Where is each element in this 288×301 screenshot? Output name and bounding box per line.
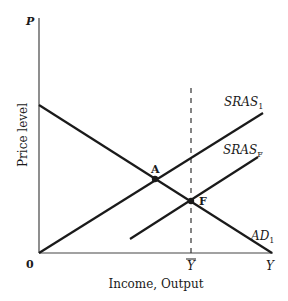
sras1-curve — [39, 113, 263, 253]
y-axis-symbol: P — [25, 15, 35, 28]
srasf-curve — [130, 157, 258, 239]
diagram-canvas: P Price level 0 Y Y Income, Output SRAS1… — [0, 0, 288, 301]
point-a-label: A — [150, 163, 160, 176]
srasf-label-name: SRAS — [223, 143, 257, 157]
y-axis-label: Price level — [16, 103, 30, 167]
x-axis-label: Income, Output — [108, 277, 203, 291]
sras1-label-name: SRAS — [224, 95, 258, 109]
srasf-label: SRASF — [223, 143, 263, 159]
point-f-label: F — [199, 195, 207, 208]
y-bar-text: Y — [187, 259, 196, 273]
srasf-label-sub: F — [257, 150, 263, 159]
ad-as-diagram: P Price level 0 Y Y Income, Output SRAS1… — [0, 0, 288, 301]
sras1-label-sub: 1 — [258, 102, 263, 111]
point-a-marker — [152, 176, 158, 182]
ad1-label-sub: 1 — [269, 236, 274, 245]
sras1-label: SRAS1 — [224, 95, 263, 111]
origin-label: 0 — [26, 258, 34, 271]
ad1-label-name: AD — [250, 229, 270, 243]
point-f-marker — [188, 198, 194, 204]
x-axis-symbol: Y — [266, 259, 275, 273]
ad1-label: AD1 — [250, 229, 274, 245]
potential-output-label: Y — [186, 259, 196, 273]
